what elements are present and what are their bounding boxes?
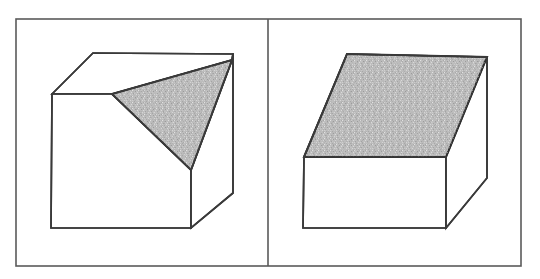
two-panel-figure	[0, 0, 540, 279]
figure-container: Two-panel line drawing of a cube with a …	[0, 0, 540, 279]
panel-right	[303, 54, 487, 228]
panel-left	[51, 53, 233, 228]
right-box-front-face	[303, 157, 446, 228]
